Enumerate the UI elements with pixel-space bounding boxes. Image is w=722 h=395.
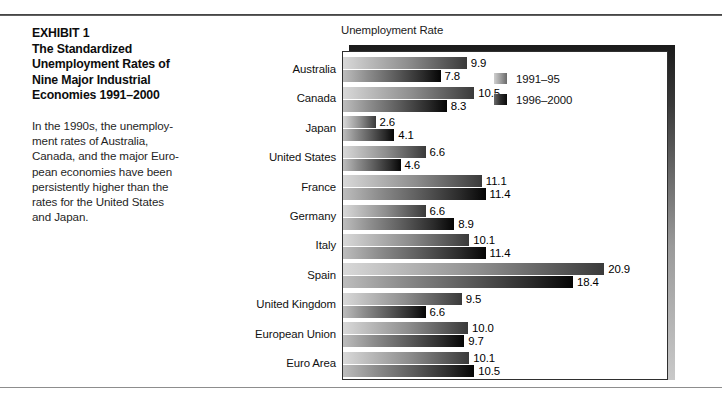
category-axis-labels: AustraliaCanadaJapanUnited StatesFranceG… — [226, 51, 336, 380]
bar-value-label: 6.6 — [430, 306, 446, 318]
exhibit-title-line: Unemployment Rates of — [32, 57, 217, 73]
legend-item-series-1: 1991–95 — [494, 68, 572, 89]
exhibit-caption-line: persistently higher than the — [32, 179, 217, 194]
exhibit-caption-line: ment rates of Australia, — [32, 133, 217, 148]
category-label-united-kingdom: United Kingdom — [256, 298, 336, 310]
bar-value-label: 18.4 — [577, 276, 599, 288]
bar-euro-area-1991-95 — [343, 352, 469, 364]
exhibit-title-line: EXHIBIT 1 — [32, 26, 217, 42]
bar-value-label: 4.6 — [405, 159, 421, 171]
bar-united-kingdom-1996-2000 — [343, 306, 426, 318]
exhibit-title: EXHIBIT 1 The Standardized Unemployment … — [32, 26, 217, 104]
bar-value-label: 9.9 — [471, 57, 487, 69]
bar-value-label: 10.5 — [478, 365, 500, 377]
bar-value-label: 10.1 — [473, 234, 495, 246]
exhibit-caption-line: In the 1990s, the unemploy- — [32, 118, 217, 133]
exhibit-caption: In the 1990s, the unemploy- ment rates o… — [32, 104, 217, 224]
bar-value-label: 2.6 — [380, 116, 396, 128]
bar-italy-1996-2000 — [343, 247, 486, 259]
bar-france-1996-2000 — [343, 188, 486, 200]
bar-value-label: 8.9 — [458, 218, 474, 230]
bar-australia-1991-95 — [343, 57, 467, 69]
category-label-japan: Japan — [305, 122, 336, 134]
bar-value-label: 6.6 — [430, 205, 446, 217]
category-label-italy: Italy — [316, 239, 336, 251]
legend-swatch-icon — [494, 73, 507, 84]
category-label-united-states: United States — [269, 151, 336, 163]
bar-germany-1991-95 — [343, 205, 426, 217]
bar-value-label: 4.1 — [398, 129, 414, 141]
bar-germany-1996-2000 — [343, 218, 454, 230]
bar-value-label: 7.8 — [445, 70, 461, 82]
exhibit-text-block: EXHIBIT 1 The Standardized Unemployment … — [32, 26, 217, 224]
legend-item-series-2: 1996–2000 — [494, 89, 572, 110]
chart-legend: 1991–95 1996–2000 — [494, 68, 572, 110]
bar-france-1991-95 — [343, 175, 482, 187]
bottom-divider-rule — [0, 387, 722, 388]
bar-european-union-1996-2000 — [343, 335, 464, 347]
bar-value-label: 20.9 — [608, 263, 630, 275]
category-label-euro-area: Euro Area — [286, 357, 336, 369]
bar-value-label: 8.3 — [451, 100, 467, 112]
bar-italy-1991-95 — [343, 234, 469, 246]
bar-value-label: 9.7 — [468, 335, 484, 347]
chart-title: Unemployment Rate — [341, 24, 443, 36]
exhibit-title-line: Nine Major Industrial — [32, 73, 217, 89]
exhibit-caption-line: Canada, and the major Euro- — [32, 148, 217, 163]
bar-japan-1991-95 — [343, 116, 376, 128]
bar-japan-1996-2000 — [343, 129, 394, 141]
bar-canada-1991-95 — [343, 87, 474, 99]
bar-value-label: 10.1 — [473, 352, 495, 364]
bar-euro-area-1996-2000 — [343, 365, 474, 377]
bar-australia-1996-2000 — [343, 70, 441, 82]
bar-united-states-1991-95 — [343, 146, 426, 158]
bar-value-label: 10.0 — [472, 322, 494, 334]
legend-label: 1996–2000 — [516, 94, 572, 106]
category-label-canada: Canada — [297, 92, 336, 104]
legend-label: 1991–95 — [516, 73, 560, 85]
category-label-spain: Spain — [307, 269, 336, 281]
bar-value-label: 11.4 — [490, 188, 511, 200]
bar-canada-1996-2000 — [343, 100, 447, 112]
category-label-australia: Australia — [293, 63, 336, 75]
unemployment-rate-chart: Unemployment Rate AustraliaCanadaJapanUn… — [226, 20, 698, 385]
legend-swatch-icon — [494, 94, 507, 105]
bar-european-union-1991-95 — [343, 322, 468, 334]
category-label-france: France — [301, 181, 336, 193]
category-label-european-union: European Union — [255, 328, 336, 340]
bar-value-label: 9.5 — [466, 293, 482, 305]
category-label-germany: Germany — [290, 210, 336, 222]
top-divider-rule — [0, 14, 722, 16]
exhibit-title-line: Economies 1991–2000 — [32, 88, 217, 104]
bar-value-label: 6.6 — [430, 146, 446, 158]
bar-value-label: 11.4 — [490, 247, 511, 259]
bar-spain-1996-2000 — [343, 276, 573, 288]
bar-spain-1991-95 — [343, 263, 604, 275]
exhibit-title-line: The Standardized — [32, 42, 217, 58]
bar-united-kingdom-1991-95 — [343, 293, 462, 305]
exhibit-caption-line: pean economies have been — [32, 164, 217, 179]
bar-united-states-1996-2000 — [343, 159, 401, 171]
exhibit-caption-line: and Japan. — [32, 209, 217, 224]
exhibit-caption-line: rates for the United States — [32, 194, 217, 209]
bar-value-label: 11.1 — [486, 175, 507, 187]
